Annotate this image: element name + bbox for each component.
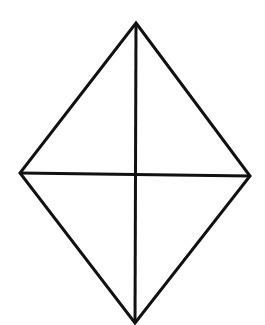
horizontal-diagonal [20,173,250,176]
vertical-diagonal [135,23,136,323]
rhombus-diagram [0,0,265,325]
